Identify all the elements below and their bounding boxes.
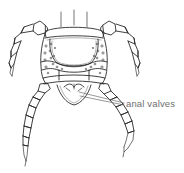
anal-valves-leader-lines	[79, 92, 124, 105]
anatomical-line-drawing	[0, 0, 184, 173]
figure-container: anal valves	[0, 0, 184, 173]
anal-valves-label: anal valves	[126, 99, 175, 109]
leg-lower-right	[99, 83, 134, 157]
leg-lower-left	[23, 83, 50, 166]
anal-valves-structure	[57, 84, 91, 105]
abdomen-body	[41, 10, 108, 105]
